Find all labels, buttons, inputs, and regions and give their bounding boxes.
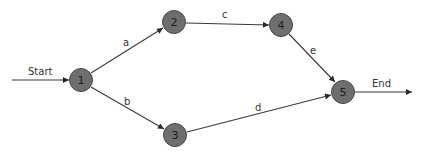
node-3-label: 3 bbox=[172, 129, 179, 142]
node-4: 4 bbox=[270, 14, 293, 37]
node-1-label: 1 bbox=[78, 74, 85, 87]
node-2: 2 bbox=[163, 11, 186, 34]
label-b: b bbox=[124, 96, 130, 107]
node-5-label: 5 bbox=[340, 86, 347, 99]
label-e: e bbox=[310, 45, 316, 56]
node-3: 3 bbox=[164, 124, 187, 147]
label-c: c bbox=[222, 9, 228, 20]
label-a: a bbox=[123, 37, 129, 48]
edge-c bbox=[186, 23, 269, 25]
node-4-label: 4 bbox=[278, 19, 285, 32]
edge-b bbox=[91, 87, 164, 129]
edge-d bbox=[187, 95, 331, 132]
node-2-label: 2 bbox=[171, 16, 178, 29]
node-1: 1 bbox=[70, 69, 93, 92]
edge-e bbox=[289, 34, 335, 82]
label-d: d bbox=[255, 102, 261, 113]
label-end: End bbox=[372, 78, 391, 89]
label-start: Start bbox=[28, 66, 53, 77]
network-diagram: Start a b c d e End 1 2 3 4 5 bbox=[0, 0, 423, 157]
edge-a bbox=[91, 28, 163, 73]
node-5: 5 bbox=[332, 81, 355, 104]
